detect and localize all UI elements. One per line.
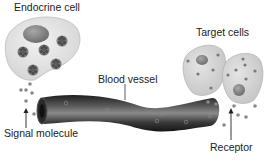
target-cell-left xyxy=(183,45,226,95)
blood-vessel xyxy=(37,95,219,132)
target-cells-label: Target cells xyxy=(196,27,249,38)
target-cell-right xyxy=(222,53,263,103)
signal-molecule-label: Signal molecule xyxy=(4,128,78,139)
secretory-vesicle xyxy=(18,47,29,58)
signal-molecule-arrow xyxy=(24,108,29,128)
endocrine-nucleus xyxy=(23,25,49,43)
receptor-label: Receptor xyxy=(210,142,253,153)
secretory-vesicle xyxy=(51,59,62,70)
secretory-vesicle xyxy=(57,36,68,47)
target-nucleus xyxy=(233,84,245,96)
signal-molecules xyxy=(19,82,36,116)
secretory-vesicle xyxy=(39,45,50,56)
receptor-arrow xyxy=(229,108,234,140)
secretory-vesicle xyxy=(28,65,39,76)
endocrine-cell xyxy=(5,17,80,80)
endocrine-cell-label: Endocrine cell xyxy=(14,2,80,13)
target-nucleus xyxy=(196,55,208,65)
blood-vessel-label: Blood vessel xyxy=(98,74,158,85)
endocrine-signaling-diagram: Endocrine cell Target cells Blood vessel… xyxy=(0,0,266,168)
